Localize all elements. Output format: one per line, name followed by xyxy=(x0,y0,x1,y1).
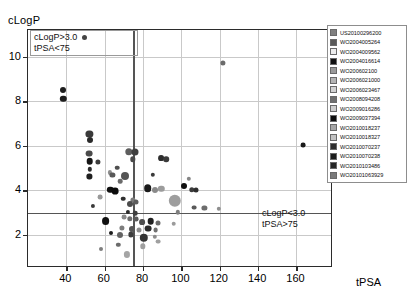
data-point[interactable] xyxy=(139,219,145,225)
annotation-ul-line1: cLogP>3.0 xyxy=(34,32,77,42)
legend-swatch-icon xyxy=(330,29,337,36)
legend-item[interactable]: WO2010103486 xyxy=(330,161,405,171)
y-tick-mark xyxy=(23,146,28,147)
data-point[interactable] xyxy=(86,150,93,157)
legend-item-label: WO2010018237 xyxy=(340,125,380,131)
data-point[interactable] xyxy=(112,188,119,195)
data-point[interactable] xyxy=(129,226,135,232)
x-tick-mark xyxy=(220,266,221,271)
data-point[interactable] xyxy=(99,247,103,251)
gridline-horizontal xyxy=(28,57,331,58)
legend-item-label: WO2004005264 xyxy=(340,39,380,45)
data-point[interactable] xyxy=(133,211,138,216)
data-point[interactable] xyxy=(127,216,132,221)
data-point[interactable] xyxy=(202,206,207,211)
data-point[interactable] xyxy=(110,172,115,177)
data-point[interactable] xyxy=(87,137,93,143)
data-point[interactable] xyxy=(156,220,161,225)
data-point[interactable] xyxy=(220,60,225,65)
y-tick-label: 4 xyxy=(3,183,21,195)
data-point[interactable] xyxy=(132,149,139,156)
data-point[interactable] xyxy=(137,228,142,233)
data-point[interactable] xyxy=(140,233,148,241)
data-point[interactable] xyxy=(144,184,152,192)
legend-item[interactable]: WO2004009562 xyxy=(330,47,405,57)
data-point[interactable] xyxy=(191,205,196,210)
x-tick-label: 60 xyxy=(98,272,110,284)
annotation-lower-right: cLogP<3.0 tPSA>75 xyxy=(262,208,305,230)
legend-item[interactable]: WO2004005264 xyxy=(330,38,405,48)
legend-item[interactable]: WO2010018237 xyxy=(330,123,405,133)
data-point[interactable] xyxy=(109,231,113,235)
data-point[interactable] xyxy=(128,232,133,237)
legend-item[interactable]: WO2009037394 xyxy=(330,114,405,124)
data-point[interactable] xyxy=(153,228,158,233)
data-point[interactable] xyxy=(152,234,156,238)
legend-item[interactable]: WO2010018327 xyxy=(330,133,405,143)
data-point[interactable] xyxy=(187,177,191,181)
data-point[interactable] xyxy=(134,200,139,205)
data-point[interactable] xyxy=(118,179,123,184)
annotation-marker-icon xyxy=(82,35,87,40)
y-tick-mark xyxy=(23,57,28,58)
y-tick-mark xyxy=(23,101,28,102)
legend-item[interactable]: US20100296200 xyxy=(330,28,405,38)
data-point[interactable] xyxy=(171,221,176,226)
legend-item-label: WO2006023467 xyxy=(340,87,380,93)
data-point[interactable] xyxy=(95,159,100,164)
data-point[interactable] xyxy=(86,158,93,165)
legend-item[interactable]: WO2006023467 xyxy=(330,85,405,95)
data-point[interactable] xyxy=(87,174,92,179)
legend-swatch-icon xyxy=(330,153,337,160)
data-point[interactable] xyxy=(134,217,139,222)
gridline-horizontal xyxy=(28,235,331,236)
x-tick-mark xyxy=(105,266,106,271)
legend-item[interactable]: WO20101063929 xyxy=(330,171,405,181)
gridline-vertical xyxy=(258,30,259,266)
legend-swatch-icon xyxy=(330,105,337,112)
y-tick-mark xyxy=(23,190,28,191)
data-point[interactable] xyxy=(91,204,95,208)
legend-item[interactable]: WO2010070237 xyxy=(330,142,405,152)
legend-swatch-icon xyxy=(330,115,337,122)
data-point[interactable] xyxy=(163,156,169,162)
legend-item[interactable]: WO2008094208 xyxy=(330,95,405,105)
data-point[interactable] xyxy=(121,215,126,220)
data-point[interactable] xyxy=(119,225,124,230)
legend-item-label: WO2008094208 xyxy=(340,96,380,102)
data-point[interactable] xyxy=(117,232,123,238)
data-point[interactable] xyxy=(152,187,158,193)
x-tick-label: 40 xyxy=(59,272,71,284)
data-point[interactable] xyxy=(124,251,130,257)
data-point[interactable] xyxy=(193,188,198,193)
data-point[interactable] xyxy=(144,225,151,232)
legend-item-label: WO2010018327 xyxy=(340,134,380,140)
legend-swatch-icon xyxy=(330,58,337,65)
legend[interactable]: US20100296200WO2004005264WO2004009562WO2… xyxy=(327,25,407,183)
legend-swatch-icon xyxy=(330,143,337,150)
data-point[interactable] xyxy=(115,165,120,170)
data-point[interactable] xyxy=(60,87,66,93)
data-point[interactable] xyxy=(102,217,110,225)
data-point[interactable] xyxy=(88,167,92,171)
legend-item[interactable]: WO2004016614 xyxy=(330,57,405,67)
data-point[interactable] xyxy=(127,201,133,207)
legend-item[interactable]: WO2009016286 xyxy=(330,104,405,114)
legend-item[interactable]: WO2010070238 xyxy=(330,152,405,162)
data-point[interactable] xyxy=(140,244,145,249)
data-point[interactable] xyxy=(301,143,306,148)
legend-item[interactable]: WO2006021000 xyxy=(330,76,405,86)
data-point[interactable] xyxy=(147,218,154,225)
data-point[interactable] xyxy=(156,239,161,244)
data-point[interactable] xyxy=(98,195,103,200)
data-point[interactable] xyxy=(116,243,120,247)
legend-item[interactable]: WO200602100 xyxy=(330,66,405,76)
x-tick-mark xyxy=(181,266,182,271)
gridline-horizontal xyxy=(28,146,331,147)
data-point[interactable] xyxy=(169,195,181,207)
data-point[interactable] xyxy=(150,173,154,177)
data-point[interactable] xyxy=(121,196,126,201)
data-point[interactable] xyxy=(181,183,187,189)
annotation-ul-line2: tPSA<75 xyxy=(34,43,87,54)
legend-item-label: WO2006021000 xyxy=(340,77,380,83)
